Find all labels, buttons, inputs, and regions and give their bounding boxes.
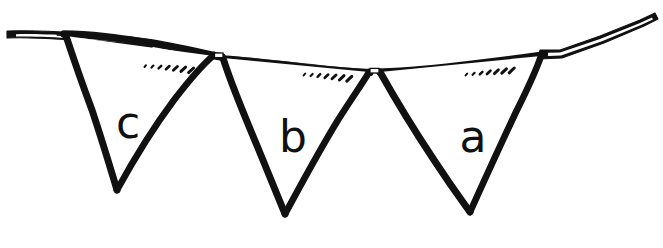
bunting-figure: c b [0, 0, 663, 248]
bunting-drawing-canvas: c b [0, 0, 663, 248]
flag-b-letter: b [279, 111, 307, 162]
flag-a-letter: a [460, 111, 487, 162]
flag-c-letter: c [116, 97, 140, 148]
joint-right [370, 68, 379, 73]
joint-left [215, 53, 224, 58]
